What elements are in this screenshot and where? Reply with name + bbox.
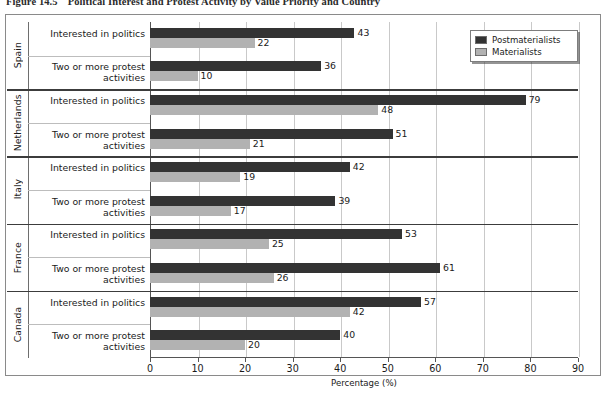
bar-value-postmaterialists: 51: [396, 129, 408, 139]
row-label: Interested in politics: [28, 28, 145, 39]
bar-postmaterialists: [150, 61, 321, 71]
bar-materialists: [150, 307, 350, 317]
bar-postmaterialists: [150, 263, 440, 273]
bar-materialists: [150, 139, 250, 149]
bar-value-materialists: 25: [272, 239, 284, 249]
bar-value-postmaterialists: 57: [424, 297, 436, 307]
bar-value-postmaterialists: 42: [353, 162, 365, 172]
bar-value-postmaterialists: 40: [343, 330, 355, 340]
x-tick: [245, 358, 246, 362]
bar-value-materialists: 22: [258, 38, 270, 48]
country-label: Canada: [7, 291, 28, 358]
legend-item-materialists: Materialists: [475, 46, 573, 58]
legend-swatch-icon-postmaterialists: [475, 36, 487, 44]
bar-materialists: [150, 38, 255, 48]
bar-materialists: [150, 105, 378, 115]
bar-materialists: [150, 172, 240, 182]
x-tick-label: 10: [178, 363, 218, 374]
x-axis-title: Percentage (%): [150, 378, 578, 388]
legend-swatch-icon-materialists: [475, 48, 487, 56]
country-label: Italy: [7, 156, 28, 223]
bar-postmaterialists: [150, 95, 526, 105]
row-label: Interested in politics: [28, 95, 145, 106]
group-separator: [7, 156, 578, 157]
bar-postmaterialists: [150, 297, 421, 307]
x-tick-label: 0: [130, 363, 170, 374]
bar-value-materialists: 19: [243, 172, 255, 182]
bar-value-materialists: 26: [277, 273, 289, 283]
row-label: Two or more protest activities: [28, 129, 145, 151]
legend-label-materialists: Materialists: [492, 47, 542, 57]
row-separator: [28, 56, 150, 57]
row-label: Interested in politics: [28, 297, 145, 308]
x-tick: [198, 358, 199, 362]
row-separator: [28, 190, 150, 191]
row-label: Interested in politics: [28, 162, 145, 173]
x-tick: [483, 358, 484, 362]
x-tick: [435, 358, 436, 362]
group-separator: [7, 89, 578, 90]
gridline: [531, 22, 532, 357]
row-label: Two or more protest activities: [28, 330, 145, 352]
x-tick-label: 90: [558, 363, 598, 374]
country-label: Spain: [7, 22, 28, 89]
bar-postmaterialists: [150, 330, 340, 340]
x-tick: [293, 358, 294, 362]
x-tick-label: 30: [273, 363, 313, 374]
group-separator: [7, 291, 578, 292]
x-tick-label: 80: [510, 363, 550, 374]
figure-caption: Figure 14.5Political Interest and Protes…: [6, 0, 566, 8]
gridline: [436, 22, 437, 357]
bar-value-postmaterialists: 79: [529, 95, 541, 105]
chart-legend: Postmaterialists Materialists: [470, 30, 578, 62]
row-separator: [28, 257, 150, 258]
country-label-column: SpainNetherlandsItalyFranceCanada: [7, 22, 28, 358]
row-label: Two or more protest activities: [28, 196, 145, 218]
bar-value-materialists: 17: [234, 206, 246, 216]
bar-value-materialists: 10: [201, 71, 213, 81]
bar-materialists: [150, 239, 269, 249]
bar-value-materialists: 21: [253, 139, 265, 149]
bar-value-postmaterialists: 36: [324, 61, 336, 71]
gridline: [389, 22, 390, 357]
row-label: Two or more protest activities: [28, 263, 145, 285]
x-tick-label: 50: [368, 363, 408, 374]
x-tick-label: 60: [415, 363, 455, 374]
figure-number: Figure 14.5: [6, 0, 58, 7]
x-tick: [340, 358, 341, 362]
x-tick-label: 40: [320, 363, 360, 374]
bar-materialists: [150, 71, 198, 81]
bar-value-postmaterialists: 43: [357, 28, 369, 38]
bar-value-materialists: 48: [381, 105, 393, 115]
bar-value-postmaterialists: 53: [405, 229, 417, 239]
row-label: Interested in politics: [28, 229, 145, 240]
x-tick: [530, 358, 531, 362]
bar-value-materialists: 20: [248, 340, 260, 350]
row-separator: [28, 324, 150, 325]
x-tick: [150, 358, 151, 362]
gridline: [579, 22, 580, 357]
bar-postmaterialists: [150, 129, 393, 139]
legend-item-postmaterialists: Postmaterialists: [475, 34, 573, 46]
country-label: Netherlands: [7, 89, 28, 156]
x-tick-label: 20: [225, 363, 265, 374]
figure-title: Political Interest and Protest Activity …: [68, 0, 380, 7]
row-separator: [28, 123, 150, 124]
bar-postmaterialists: [150, 28, 354, 38]
row-label: Two or more protest activities: [28, 61, 145, 83]
bar-value-postmaterialists: 39: [338, 196, 350, 206]
figure-container: Figure 14.5Political Interest and Protes…: [0, 0, 606, 408]
x-tick: [388, 358, 389, 362]
country-label: France: [7, 224, 28, 291]
legend-label-postmaterialists: Postmaterialists: [492, 35, 561, 45]
x-tick: [578, 358, 579, 362]
bar-value-postmaterialists: 61: [443, 263, 455, 273]
gridline: [484, 22, 485, 357]
bar-materialists: [150, 206, 231, 216]
bar-materialists: [150, 340, 245, 350]
x-tick-label: 70: [463, 363, 503, 374]
bar-materialists: [150, 273, 274, 283]
bar-value-materialists: 42: [353, 307, 365, 317]
group-separator: [7, 224, 578, 225]
